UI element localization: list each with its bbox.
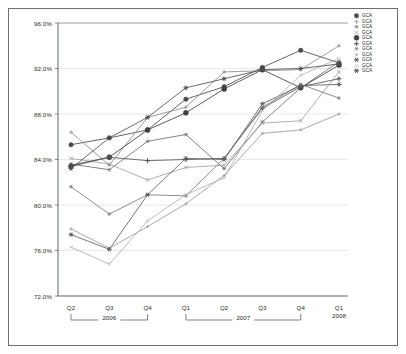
data-point-marker [354, 14, 358, 18]
series-group [69, 48, 341, 147]
data-point-marker [356, 59, 358, 61]
data-point-marker [300, 85, 302, 87]
legend-marker-icon [352, 68, 361, 74]
y-axis-tick-label: 96.0% [18, 20, 52, 27]
y-axis-tick-label: 92.0% [18, 65, 52, 72]
y-axis-tick-label: 72.0% [18, 293, 52, 300]
x-axis-tick-label: Q4 [135, 304, 161, 311]
data-point-marker [223, 159, 225, 161]
x-axis-tick-label: Q3 [249, 304, 275, 311]
y-axis-tick-label: 84.0% [18, 156, 52, 163]
x-axis-tick-label: Q2 [58, 304, 84, 311]
legend-item[interactable]: GCA [352, 68, 400, 74]
series-line [71, 114, 339, 248]
x-axis-tick-label: Q1 [326, 304, 352, 311]
chart-legend: GCAGCAGCAGCAGCAGCAGCAGCAGCAGCAGCA [352, 13, 400, 74]
data-point-marker [183, 110, 188, 115]
chart-plot-svg [0, 0, 406, 354]
x-axis-tick-label: Q1 [173, 304, 199, 311]
series-line [71, 84, 339, 214]
line-chart: 96.0%92.0%88.0%84.0%80.0%76.0%72.0% Q2Q3… [0, 0, 406, 354]
y-axis-tick-label: 80.0% [18, 202, 52, 209]
y-axis-tick-label: 88.0% [18, 111, 52, 118]
data-point-marker [69, 143, 73, 147]
data-point-marker [354, 35, 359, 40]
data-point-marker [300, 68, 302, 70]
series-line [71, 79, 339, 165]
data-point-marker [262, 69, 264, 71]
data-point-marker [70, 234, 72, 236]
x-axis-tick-label: Q4 [288, 304, 314, 311]
series-line [71, 64, 339, 169]
data-point-marker [184, 97, 188, 101]
series-lines [69, 44, 342, 266]
series-line [71, 50, 339, 144]
data-point-marker [338, 63, 340, 65]
y-axis-tick-label: 76.0% [18, 247, 52, 254]
x-axis-year-label: 2006 [96, 314, 122, 321]
series-group [69, 112, 340, 249]
series-group [69, 44, 341, 167]
series-line [71, 84, 339, 249]
data-point-marker [147, 117, 149, 119]
series-line [71, 62, 339, 170]
data-point-marker [262, 103, 264, 105]
legend-item-label: GCA [362, 68, 372, 74]
data-point-marker [185, 87, 187, 89]
data-point-marker [145, 127, 150, 132]
data-point-marker [356, 70, 358, 72]
x-axis-tick-label: Q2 [211, 304, 237, 311]
series-line [71, 46, 339, 165]
series-group [69, 83, 341, 216]
data-point-marker [70, 168, 72, 170]
chart-page: 96.0%92.0%88.0%84.0%80.0%76.0%72.0% Q2Q3… [0, 0, 406, 354]
series-group [69, 62, 342, 171]
data-point-marker [223, 78, 225, 80]
data-point-marker [185, 157, 187, 159]
data-point-marker [222, 86, 227, 91]
x-axis-year-label: 2008 [326, 312, 352, 319]
data-point-marker [147, 194, 149, 196]
data-point-marker [108, 248, 110, 250]
x-axis-year-label: 2007 [230, 314, 256, 321]
data-point-marker [108, 137, 110, 139]
data-point-marker [338, 84, 340, 86]
series-group [69, 63, 342, 169]
x-axis-tick-label: Q3 [96, 304, 122, 311]
data-point-marker [299, 48, 303, 52]
